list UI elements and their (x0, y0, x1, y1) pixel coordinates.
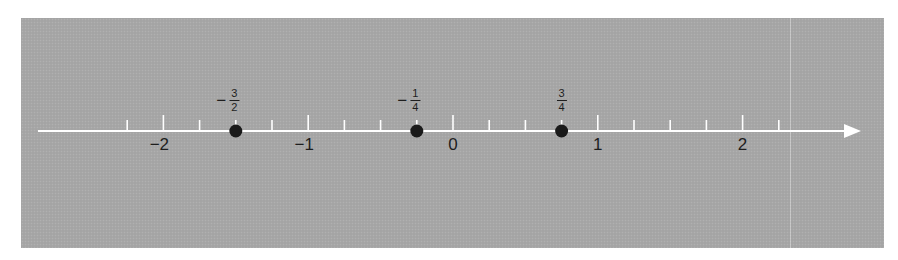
point-marker (229, 125, 242, 138)
arrow-right-icon (844, 124, 861, 138)
denominator: 4 (412, 101, 418, 113)
denominator: 2 (231, 101, 237, 113)
fraction-stack: 14 (410, 88, 420, 113)
number-line (0, 0, 898, 260)
numerator: 3 (229, 88, 239, 101)
minus-sign: − (216, 92, 226, 109)
tick-label: −1 (294, 136, 313, 153)
tick-label: −2 (150, 136, 169, 153)
point-marker (410, 125, 423, 138)
denominator: 4 (559, 101, 565, 113)
tick-marks (127, 115, 779, 131)
point-label-fraction: −14 (397, 88, 420, 113)
numerator: 1 (410, 88, 420, 101)
minus-sign: − (397, 92, 407, 109)
point-label-fraction: 34 (557, 88, 567, 113)
fraction-stack: 34 (557, 88, 567, 113)
point-label-fraction: −32 (216, 88, 239, 113)
tick-label: 0 (448, 136, 457, 153)
tick-label: 1 (593, 136, 602, 153)
numerator: 3 (557, 88, 567, 101)
tick-label: 2 (738, 136, 747, 153)
point-marker (555, 125, 568, 138)
fraction-stack: 32 (229, 88, 239, 113)
